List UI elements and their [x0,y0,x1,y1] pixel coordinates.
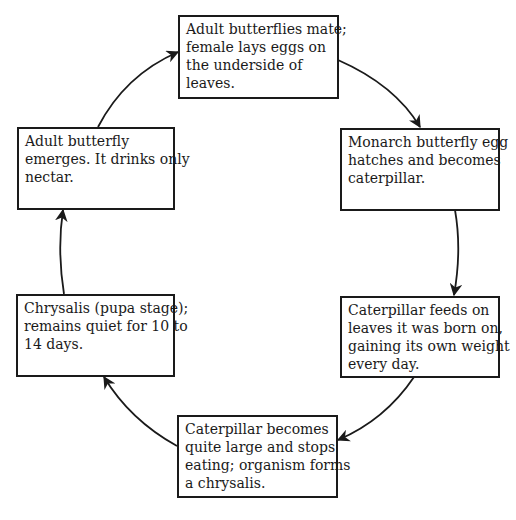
stage-text-line: emerges. It drinks only [25,150,167,168]
stage-text-line: Caterpillar becomes [185,420,330,438]
life-cycle-diagram: Adult butterflies mate; female lays eggs… [0,0,516,520]
arrow-chrysalis-to-emerge [60,210,64,294]
stage-box-chrysalis: Chrysalis (pupa stage); remains quiet fo… [16,294,175,377]
stage-box-egg: Monarch butterfly egg hatches and become… [340,128,500,211]
arrow-emerge-to-mate [98,52,178,127]
stage-text-line: female lays eggs on [186,38,331,56]
stage-text-line: Adult butterflies mate; [186,20,331,38]
stage-text-line: eating; organism forms [185,456,330,474]
stage-text-line: caterpillar. [348,169,492,187]
stage-box-mate: Adult butterflies mate; female lays eggs… [178,15,339,99]
stage-box-emerge: Adult butterfly emerges. It drinks only … [17,127,175,210]
stage-text-line: 14 days. [24,335,167,353]
stage-text-line: nectar. [25,168,167,186]
stage-text-line: leaves it was born on, [348,319,492,337]
stage-text-line: hatches and becomes [348,151,492,169]
stage-text-line: the underside of [186,56,331,74]
arrow-large-to-chrysalis [104,377,177,446]
stage-box-large: Caterpillar becomes quite large and stop… [177,415,338,498]
arrow-feed-to-large [338,377,414,440]
stage-text-line: leaves. [186,74,331,92]
arrow-mate-to-egg [338,60,420,127]
stage-box-feed: Caterpillar feeds on leaves it was born … [340,296,500,378]
stage-text-line: Monarch butterfly egg [348,133,492,151]
arrow-egg-to-feed [454,210,458,295]
stage-text-line: Adult butterfly [25,132,167,150]
stage-text-line: a chrysalis. [185,474,330,492]
stage-text-line: Chrysalis (pupa stage); [24,299,167,317]
stage-text-line: every day. [348,355,492,373]
stage-text-line: remains quiet for 10 to [24,317,167,335]
stage-text-line: Caterpillar feeds on [348,301,492,319]
stage-text-line: quite large and stops [185,438,330,456]
stage-text-line: gaining its own weight [348,337,492,355]
